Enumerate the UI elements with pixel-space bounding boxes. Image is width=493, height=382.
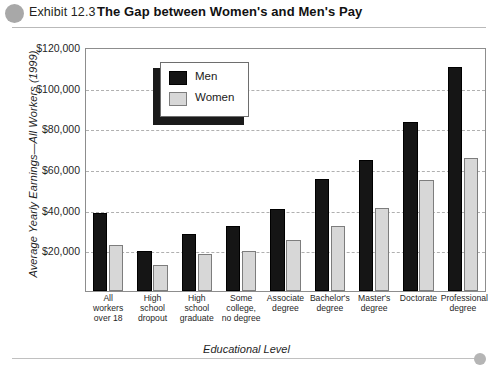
- y-axis-tick-label: $20,000: [2, 245, 80, 257]
- bar-chart: Average Yearly Earnings—All Workers (199…: [0, 30, 493, 382]
- x-axis-tick-label: Highschooldropout: [130, 293, 174, 324]
- bar-men: [137, 251, 152, 291]
- legend-label-women: Women: [195, 91, 234, 103]
- bar-women: [109, 245, 124, 291]
- footer-divider: [12, 358, 478, 359]
- chart-legend: Men Women: [160, 62, 249, 117]
- bar-women: [198, 254, 213, 291]
- legend-swatch-women-icon: [169, 92, 187, 106]
- bar-women: [242, 251, 257, 291]
- bar-men: [315, 179, 330, 291]
- x-axis-tick-label: Highschoolgraduate: [175, 293, 219, 324]
- footer-bullet-icon: [474, 353, 486, 365]
- bar-men: [270, 209, 285, 291]
- header-divider: [12, 27, 486, 28]
- bar-men: [448, 67, 463, 291]
- exhibit-number: Exhibit 12.3: [29, 5, 96, 19]
- bar-men: [359, 160, 374, 291]
- x-axis-tick-label: Bachelor'sdegree: [308, 293, 352, 313]
- x-axis-title: Educational Level: [0, 343, 493, 355]
- x-axis-tick-label: Master'sdegree: [352, 293, 396, 313]
- y-axis-tick-label: $120,000: [2, 42, 80, 54]
- exhibit-header: Exhibit 12.3 The Gap between Women's and…: [0, 0, 493, 30]
- x-axis-tick-label: Allworkersover 18: [86, 293, 130, 324]
- bar-women: [419, 180, 434, 291]
- bar-men: [182, 234, 197, 291]
- y-axis-tick-label: $60,000: [2, 164, 80, 176]
- bar-women: [331, 226, 346, 291]
- bar-women: [375, 208, 390, 291]
- x-axis-tick-labels: Allworkersover 18HighschooldropoutHighsc…: [86, 293, 485, 333]
- x-axis-tick-label: Professionaldegree: [441, 293, 485, 313]
- legend-swatch-men-icon: [169, 71, 187, 85]
- x-axis-tick-label: Doctorate: [396, 293, 440, 303]
- y-axis-tick-label: $40,000: [2, 205, 80, 217]
- exhibit-bullet-icon: [5, 4, 24, 23]
- y-axis-tick-label: $100,000: [2, 83, 80, 95]
- bar-women: [464, 158, 479, 291]
- legend-label-men: Men: [195, 70, 217, 82]
- page-title: The Gap between Women's and Men's Pay: [97, 4, 362, 19]
- y-axis-tick-label: $80,000: [2, 123, 80, 135]
- bar-women: [286, 240, 301, 291]
- bars-layer: [86, 49, 485, 291]
- bar-men: [403, 122, 418, 291]
- bar-men: [226, 226, 241, 291]
- x-axis-tick-label: Somecollege,no degree: [219, 293, 263, 324]
- x-axis-tick-label: Associatedegree: [263, 293, 307, 313]
- y-axis-tick-labels: $20,000$40,000$60,000$80,000$100,000$120…: [0, 48, 80, 292]
- bar-men: [93, 213, 108, 291]
- bar-women: [153, 265, 168, 291]
